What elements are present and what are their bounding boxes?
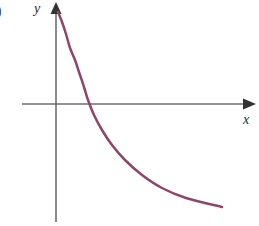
y-axis-label: y xyxy=(34,2,40,16)
axes-group xyxy=(22,2,256,222)
data-curve xyxy=(58,12,222,207)
data-curve-group xyxy=(58,12,222,207)
figure-root: ) y x xyxy=(0,0,259,226)
x-axis-label: x xyxy=(243,113,249,127)
coordinate-plot xyxy=(0,0,259,226)
y-axis-arrowhead-icon xyxy=(51,2,62,14)
x-axis-arrowhead-icon xyxy=(243,99,256,110)
